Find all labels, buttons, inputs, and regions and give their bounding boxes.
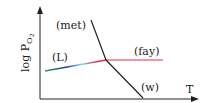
- x-axis: [40, 96, 199, 102]
- y-axis: [37, 6, 43, 99]
- label-L: (L): [52, 51, 68, 64]
- x-axis-label: T: [186, 83, 194, 96]
- curve-met: [91, 20, 106, 60]
- label-fay: (fay): [134, 45, 159, 58]
- label-w: (w): [141, 81, 159, 94]
- x-axis-arrow-icon: [191, 96, 199, 102]
- svg-text:log PO2: log PO2: [19, 33, 35, 72]
- curve-w: [106, 60, 143, 98]
- phase-diagram: log PO2 T (met) (fay) (L) (w): [0, 0, 205, 103]
- y-axis-arrow-icon: [37, 6, 43, 14]
- label-met: (met): [56, 19, 86, 32]
- y-axis-label: log PO2: [19, 33, 35, 72]
